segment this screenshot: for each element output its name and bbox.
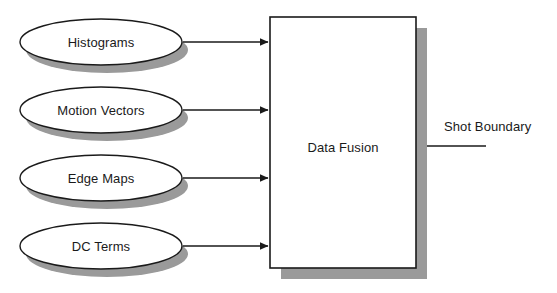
label-edge-maps: Edge Maps <box>68 171 135 186</box>
label-motion-vectors: Motion Vectors <box>57 103 144 118</box>
diagram-canvas: Histograms Motion Vectors Edge Maps DC T… <box>0 0 557 293</box>
label-histograms: Histograms <box>68 35 135 50</box>
label-shot-boundary: Shot Boundary <box>444 119 531 134</box>
label-data-fusion: Data Fusion <box>307 140 378 155</box>
label-dc-terms: DC Terms <box>72 239 130 254</box>
